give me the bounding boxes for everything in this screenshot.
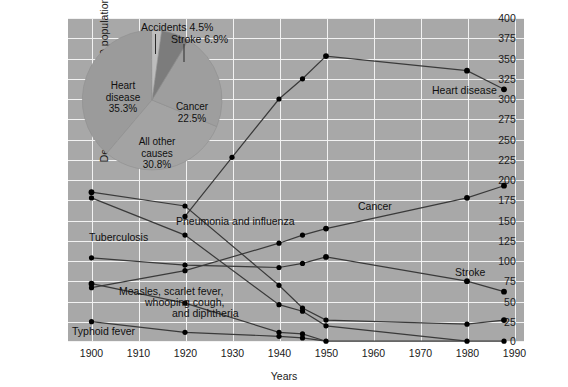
chart-figure: 400 375 350 325 300 275 250 225 200 175 … xyxy=(0,0,568,387)
annotation-typhoid-fever: Typhoid fever xyxy=(72,325,135,337)
annotation-cancer: Cancer xyxy=(358,200,392,212)
pie-label-line: causes xyxy=(124,148,190,160)
pie-callout-stroke: Stroke 6.9% xyxy=(171,33,228,45)
pie-label-line: 22.5% xyxy=(163,113,221,125)
pie-callout-accidents: Accidents 4.5% xyxy=(141,21,213,33)
pie-label-line: Cancer xyxy=(163,101,221,113)
annotation-tuberculosis: Tuberculosis xyxy=(89,231,148,243)
annotation-pneumonia-influenza: Pneumonia and influenza xyxy=(176,215,295,227)
pie-label-cancer: Cancer 22.5% xyxy=(163,101,221,124)
annotation-stroke: Stroke xyxy=(455,266,485,278)
annotation-heart-disease: Heart disease xyxy=(432,84,497,96)
annotation-measles-line3: and diphtheria xyxy=(172,307,239,319)
pie-label-all-other-causes: All other causes 30.8% xyxy=(124,136,190,171)
pie-label-line: All other xyxy=(124,136,190,148)
pie-label-line: disease xyxy=(92,92,154,104)
pie-label-line: 35.3% xyxy=(92,103,154,115)
pie-label-line: 30.8% xyxy=(124,159,190,171)
pie-label-line: Heart xyxy=(92,80,154,92)
pie-label-heart-disease: Heart disease 35.3% xyxy=(92,80,154,115)
